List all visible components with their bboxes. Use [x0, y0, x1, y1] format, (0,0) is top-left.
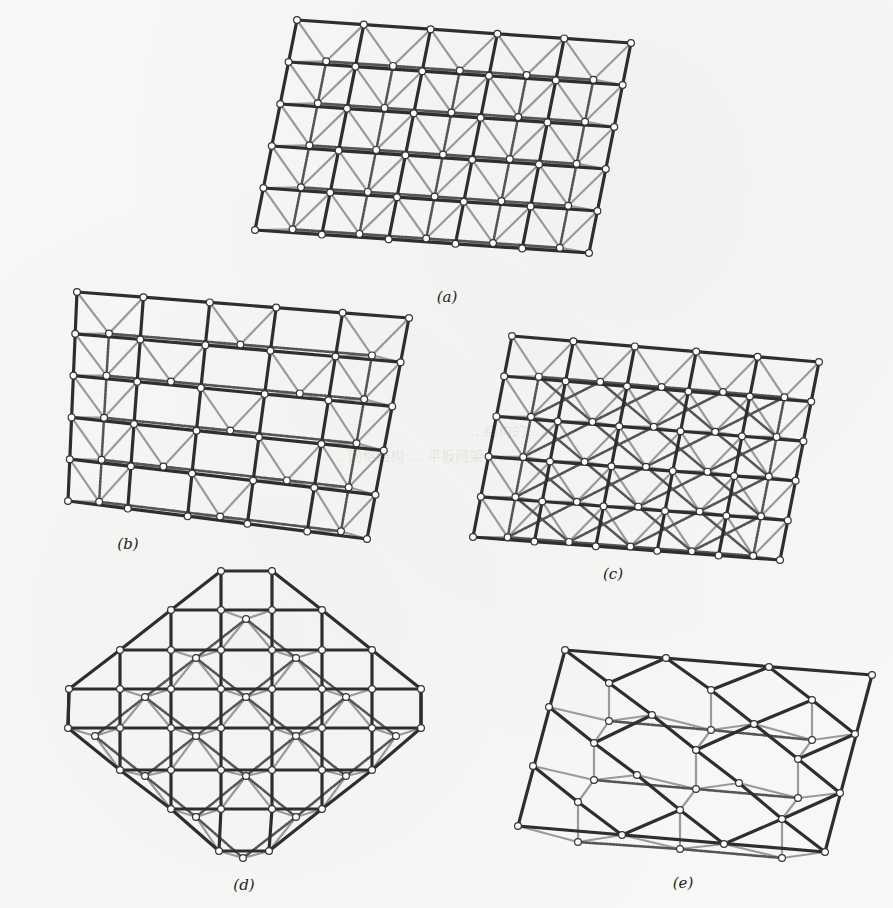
top-chord-member	[798, 759, 840, 793]
joint-node	[611, 124, 618, 131]
web-member	[472, 160, 501, 201]
joint-node	[131, 421, 138, 428]
joint-node	[619, 82, 626, 89]
joint-node	[184, 513, 191, 520]
joint-node	[570, 338, 577, 345]
joint-node	[267, 347, 274, 354]
joint-node	[477, 493, 484, 500]
web-member	[405, 155, 434, 196]
web-member	[489, 76, 518, 117]
web-member	[280, 104, 309, 145]
joint-node	[469, 156, 476, 163]
joint-node	[418, 686, 425, 693]
joint-node	[781, 394, 788, 401]
joint-node	[244, 520, 251, 527]
top-chord-member	[565, 650, 872, 675]
joint-node	[269, 767, 276, 774]
joint-node	[628, 40, 635, 47]
joint-node	[339, 309, 346, 316]
joint-node	[256, 434, 263, 441]
joint-node	[117, 647, 124, 654]
web-member	[564, 38, 593, 79]
bottom-chord-member	[99, 460, 101, 502]
joint-node	[654, 547, 661, 554]
top-chord-member	[782, 819, 825, 852]
joint-node	[515, 823, 522, 830]
joint-node	[402, 152, 409, 159]
web-member	[481, 497, 508, 537]
joint-node	[338, 528, 345, 535]
joint-node	[218, 607, 225, 614]
joint-node	[269, 725, 276, 732]
top-chord-member	[496, 376, 504, 416]
web-member	[75, 334, 106, 376]
joint-node	[319, 607, 326, 614]
joint-node	[669, 468, 676, 475]
joint-node	[218, 686, 225, 693]
joint-node	[227, 427, 234, 434]
joint-node	[573, 160, 580, 167]
joint-node	[546, 704, 553, 711]
joint-node	[319, 725, 326, 732]
top-chord-member	[696, 750, 739, 783]
joint-node	[822, 849, 829, 856]
joint-node	[268, 143, 275, 150]
joint-node	[693, 786, 700, 793]
joint-node	[452, 240, 459, 247]
joint-node	[66, 686, 73, 693]
joint-node	[269, 607, 276, 614]
joint-node	[343, 773, 350, 780]
joint-node	[189, 470, 196, 477]
joint-node	[352, 63, 359, 70]
joint-node	[561, 35, 568, 42]
bleed-through-text: … 网格结构 … 平板网架 …	[330, 445, 502, 465]
joint-node	[335, 147, 342, 154]
joint-node	[419, 68, 426, 75]
joint-node	[547, 458, 554, 465]
top-chord-member	[265, 351, 271, 394]
joint-node	[124, 505, 131, 512]
web-member	[246, 697, 272, 728]
joint-node	[319, 647, 326, 654]
joint-node	[72, 330, 79, 337]
joint-node	[808, 398, 815, 405]
joint-node	[536, 161, 543, 168]
joint-node	[597, 378, 604, 385]
joint-node	[319, 686, 326, 693]
joint-node	[658, 384, 665, 391]
top-chord-member	[255, 188, 263, 230]
joint-node	[332, 353, 339, 360]
joint-node	[216, 848, 223, 855]
joint-node	[160, 463, 167, 470]
joint-node	[498, 198, 505, 205]
top-chord-member	[497, 34, 564, 39]
joint-node	[168, 647, 175, 654]
web-member	[635, 346, 662, 387]
joint-node	[410, 110, 417, 117]
top-chord-member	[307, 488, 314, 532]
joint-node	[319, 806, 326, 813]
scanned-page: (a) (b) (c) (d) (e) …结构的 … … 网格结构 … 平板网架…	[0, 0, 893, 908]
web-member	[171, 345, 205, 381]
joint-node	[285, 59, 292, 66]
web-member	[547, 122, 576, 163]
web-member	[70, 459, 99, 502]
top-chord-member	[372, 650, 421, 689]
joint-node	[397, 359, 404, 366]
joint-node	[193, 655, 200, 662]
top-chord-member	[272, 571, 322, 610]
web-member	[531, 206, 560, 247]
joint-node	[477, 114, 484, 121]
joint-node	[566, 538, 573, 545]
web-member	[297, 20, 326, 61]
joint-node	[460, 198, 467, 205]
joint-node	[662, 508, 669, 515]
joint-node	[269, 647, 276, 654]
joint-node	[206, 299, 213, 306]
joint-node	[393, 733, 400, 740]
joint-node	[539, 498, 546, 505]
joint-node	[318, 441, 325, 448]
web-member	[270, 351, 299, 394]
web-member	[422, 71, 451, 112]
top-chord-member	[622, 810, 680, 835]
